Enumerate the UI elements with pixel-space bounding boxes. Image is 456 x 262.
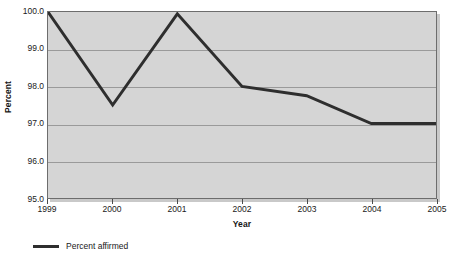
x-axis-tick-label: 2000 [90,205,134,214]
x-axis-title: Year [47,219,437,229]
legend-label: Percent affirmed [66,242,128,251]
x-axis-tick-label: 2003 [285,205,329,214]
line-chart: Percent 95.096.097.098.099.0100.0 199920… [0,0,456,262]
x-axis-tick-label: 2001 [155,205,199,214]
x-axis-tick-label: 1999 [25,205,69,214]
x-axis-tick-label: 2004 [350,205,394,214]
x-axis-tick-label: 2002 [220,205,264,214]
legend-line-swatch [33,245,59,248]
chart-legend: Percent affirmed [33,242,128,251]
x-axis-tick-label: 2005 [415,205,456,214]
